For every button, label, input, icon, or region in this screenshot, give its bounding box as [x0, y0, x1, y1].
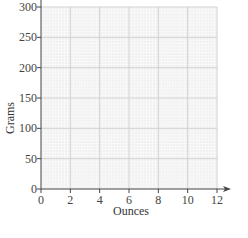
y-axis-ticks: 050100150200250300 — [19, 0, 41, 196]
y-tick-label: 300 — [19, 0, 37, 14]
chart: 050100150200250300 024681012 Grams Ounce… — [0, 0, 248, 238]
y-axis-title: Grams — [3, 102, 17, 134]
x-tick-label: 8 — [155, 193, 161, 207]
x-axis-title: Ounces — [113, 204, 149, 218]
plot-area — [41, 7, 217, 189]
x-tick-label: 10 — [182, 193, 194, 207]
x-tick-label: 2 — [67, 193, 73, 207]
x-tick-label: 0 — [38, 193, 44, 207]
y-tick-label: 250 — [19, 30, 37, 44]
y-tick-label: 100 — [19, 121, 37, 135]
y-tick-label: 200 — [19, 61, 37, 75]
x-tick-label: 4 — [97, 193, 103, 207]
y-tick-label: 50 — [25, 152, 37, 166]
y-tick-label: 0 — [31, 182, 37, 196]
y-tick-label: 150 — [19, 91, 37, 105]
x-tick-label: 12 — [211, 193, 223, 207]
